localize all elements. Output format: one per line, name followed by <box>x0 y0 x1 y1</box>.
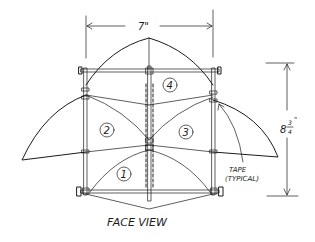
width-dimension: 7" <box>86 10 213 58</box>
callout-line1: TAPE <box>229 166 247 174</box>
kite-face-view-drawing: 7" 8 3 4 " <box>0 0 315 242</box>
height-frac-den: 4 <box>288 128 292 135</box>
top-sail-outline <box>86 38 213 85</box>
width-label: 7" <box>138 21 149 32</box>
svg-text:4: 4 <box>167 80 173 91</box>
panel-label-right: 3 <box>179 125 193 139</box>
panel-label-left: 2 <box>100 123 114 137</box>
height-frac-num: 3 <box>288 119 292 126</box>
height-dimension: 8 3 4 " <box>266 63 298 196</box>
tape-callout: TAPE (TYPICAL) <box>218 104 259 183</box>
svg-text:1: 1 <box>121 169 127 180</box>
callout-line2: (TYPICAL) <box>225 175 259 183</box>
drawing-title: FACE VIEW <box>107 216 168 229</box>
left-wing-outline <box>22 95 86 160</box>
panel-label-bottom: 1 <box>117 167 131 181</box>
panel-label-top: 4 <box>163 78 177 92</box>
panel-lines <box>86 95 213 209</box>
frame-spars <box>81 66 219 201</box>
height-unit: " <box>294 116 297 124</box>
spar-end-caps <box>77 67 223 196</box>
tape-pieces <box>82 68 217 194</box>
svg-text:3: 3 <box>183 127 189 138</box>
height-whole: 8 <box>280 124 286 135</box>
svg-text:2: 2 <box>104 125 110 136</box>
